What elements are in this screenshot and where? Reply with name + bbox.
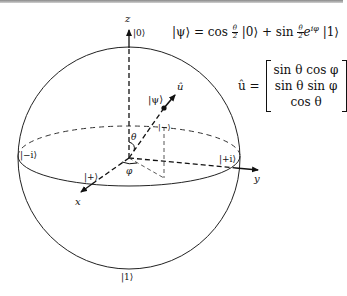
plus-x-label: |+⟩	[84, 172, 98, 183]
right-bracket	[342, 60, 347, 112]
exp-base: e	[304, 25, 311, 39]
theta-arc	[129, 142, 134, 151]
projection-radial	[129, 158, 164, 178]
theta-label: θ	[131, 132, 137, 142]
u-hat-label: û	[177, 81, 183, 92]
state-cos: = cos	[190, 25, 232, 39]
minus-i-label: |−i⟩	[20, 150, 37, 161]
x-axis-arrow	[81, 184, 92, 192]
u-hat-equation: û = sin θ cos φ sin θ sin φ cos θ	[238, 60, 347, 112]
matrix-row-1: sin θ cos φ	[274, 62, 339, 78]
exp-power: iφ	[311, 24, 319, 33]
phi-label: φ	[126, 166, 133, 176]
x-axis-label: x	[75, 196, 81, 207]
u-hat-matrix: sin θ cos φ sin θ sin φ cos θ	[266, 60, 347, 112]
south-pole-label: |1⟩	[121, 272, 133, 283]
matrix-row-2: sin θ sin φ	[275, 78, 338, 94]
state-tail: |1⟩	[319, 25, 339, 39]
minus-x-label: |−⟩	[158, 123, 171, 132]
state-equation: |ψ⟩ = cos θ2 |0⟩ + sin θ2eiφ |1⟩	[172, 24, 339, 40]
z-axis-label: z	[124, 13, 131, 24]
phi-arc	[122, 162, 137, 164]
psi-point	[161, 105, 166, 110]
north-pole-label: |0⟩	[133, 28, 145, 39]
state-mid: |0⟩ + sin	[238, 25, 297, 39]
y-axis-label: y	[253, 173, 260, 184]
matrix-row-3: cos θ	[290, 94, 321, 110]
psi-label: |ψ⟩	[148, 94, 163, 106]
state-lhs: |ψ⟩	[172, 25, 190, 39]
u-hat-lhs: û =	[238, 79, 260, 93]
plus-i-label: |+i⟩	[219, 154, 236, 165]
